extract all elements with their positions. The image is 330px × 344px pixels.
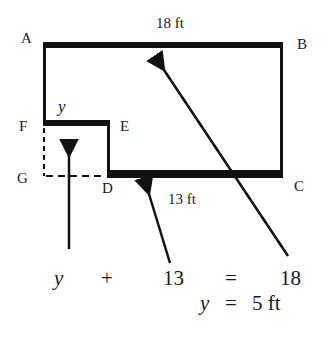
floor-plan-diagram: A B F E G D C 18 ft 13 ft y y + 13 = 18 … [0, 0, 330, 344]
edge-ed [107, 120, 110, 178]
dimension-bottom: 13 ft [168, 191, 197, 207]
solution: y = 5 ft [198, 291, 281, 315]
equation-term-13: 13 [163, 266, 184, 290]
equation-plus: + [101, 266, 113, 290]
shape-outline [43, 42, 283, 178]
vertex-e: E [120, 118, 129, 134]
solution-value: 5 ft [252, 291, 281, 315]
equation-equals: = [225, 266, 237, 290]
arrow-13 [149, 194, 170, 263]
solution-equals: = [225, 291, 237, 315]
equation: y + 13 = 18 [52, 266, 301, 290]
edge-ab [43, 42, 283, 48]
equation-term-y: y [52, 266, 64, 290]
edge-fe [43, 120, 110, 126]
vertex-a: A [21, 30, 32, 46]
arrows [69, 70, 288, 263]
vertex-b: B [297, 36, 307, 52]
vertex-d: D [102, 180, 113, 196]
arrow-18 [164, 70, 288, 256]
edge-af [43, 42, 46, 126]
solution-var: y [198, 291, 210, 315]
vertex-g: G [17, 170, 28, 186]
dimension-top: 18 ft [156, 15, 185, 31]
dimension-y: y [56, 97, 66, 116]
edge-bc [280, 42, 283, 178]
edge-dc [107, 170, 283, 178]
equation-term-18: 18 [280, 266, 301, 290]
vertex-c: C [294, 178, 304, 194]
vertex-f: F [19, 118, 27, 134]
